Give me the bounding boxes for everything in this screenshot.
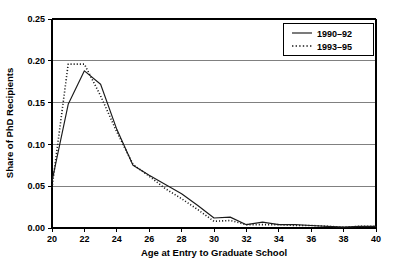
x-tick-label: 40 xyxy=(371,234,381,244)
x-tick-label: 28 xyxy=(177,234,187,244)
x-tick-label: 26 xyxy=(144,234,154,244)
x-tick-label: 30 xyxy=(209,234,219,244)
x-axis-title: Age at Entry to Graduate School xyxy=(141,247,287,258)
y-tick-label: 0.10 xyxy=(27,140,45,150)
x-tick-label: 24 xyxy=(112,234,122,244)
data-series-group xyxy=(52,64,376,227)
series-line-1993-95 xyxy=(52,64,376,227)
x-tick-label: 34 xyxy=(274,234,284,244)
x-tick-label: 38 xyxy=(339,234,349,244)
line-chart: 0.000.050.100.150.200.25 202224262830323… xyxy=(0,0,396,269)
y-tick-label: 0.15 xyxy=(27,98,45,108)
legend-label-0: 1990–92 xyxy=(317,29,352,39)
y-tick-label: 0.25 xyxy=(27,14,45,24)
y-tick-label: 0.00 xyxy=(27,223,45,233)
y-axis-title: Share of PhD Recipients xyxy=(4,68,15,178)
y-tick-label: 0.20 xyxy=(27,56,45,66)
series-line-1990-92 xyxy=(52,71,376,227)
y-axis-ticks-group: 0.000.050.100.150.200.25 xyxy=(27,14,52,233)
x-tick-label: 22 xyxy=(79,234,89,244)
x-tick-label: 32 xyxy=(241,234,251,244)
x-tick-label: 20 xyxy=(47,234,57,244)
legend-label-1: 1993–95 xyxy=(317,42,352,52)
gridlines-group xyxy=(52,61,376,186)
chart-figure: 0.000.050.100.150.200.25 202224262830323… xyxy=(0,0,396,269)
x-axis-ticks-group: 2022242628303234363840 xyxy=(47,228,381,244)
chart-legend: 1990–92 1993–95 xyxy=(283,23,373,55)
y-tick-label: 0.05 xyxy=(27,181,45,191)
x-tick-label: 36 xyxy=(306,234,316,244)
